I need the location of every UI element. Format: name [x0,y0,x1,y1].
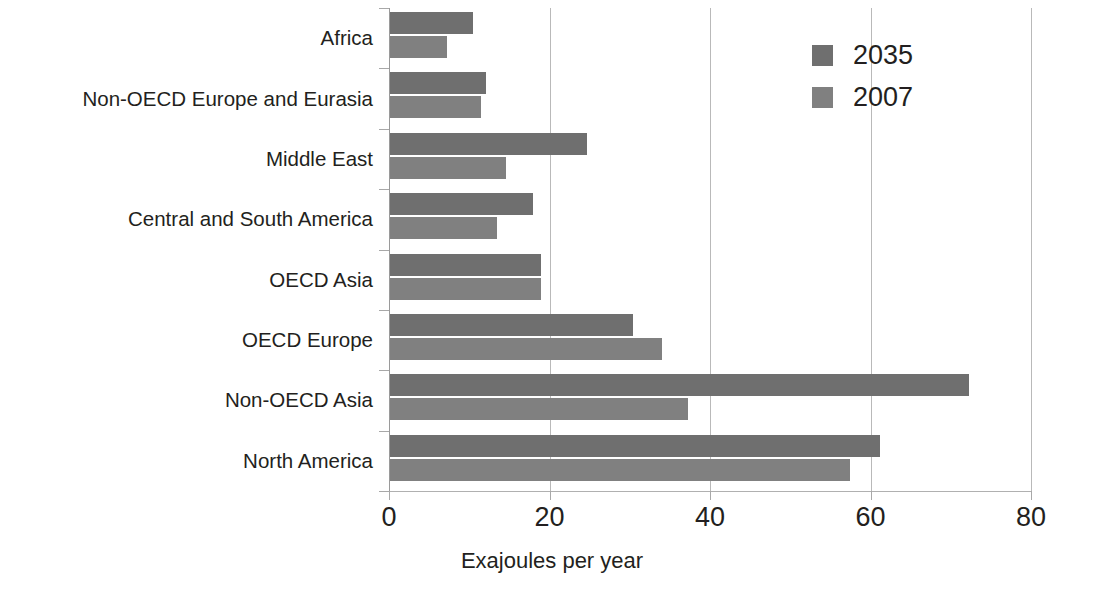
chart-legend: 2035 2007 [812,34,992,118]
category-label: OECD Asia [0,270,373,291]
bar-group [389,129,1031,189]
x-tick-label: 60 [855,504,885,531]
bar-group [389,189,1031,249]
x-tick-label: 80 [1016,504,1046,531]
y-tick [379,189,389,190]
y-tick [379,129,389,130]
bar-2035 [389,314,633,336]
bar-2035 [389,133,587,155]
bar-group [389,310,1031,370]
y-tick [379,310,389,311]
bar-2007 [389,96,481,118]
bar-2035 [389,435,880,457]
y-tick [379,68,389,69]
legend-swatch-icon-2035 [812,45,833,66]
category-label: Non-OECD Europe and Eurasia [0,89,373,110]
bar-chart: AfricaNon-OECD Europe and EurasiaMiddle … [0,0,1104,592]
legend-item-2035[interactable]: 2035 [812,34,992,76]
x-tick-label: 0 [381,504,396,531]
category-label: North America [0,451,373,472]
y-tick [379,8,389,9]
y-tick [379,431,389,432]
y-axis-line [389,8,390,492]
legend-item-2007[interactable]: 2007 [812,76,992,118]
bar-2035 [389,374,969,396]
category-label: OECD Europe [0,330,373,351]
x-tick-label: 40 [695,504,725,531]
bar-group [389,370,1031,430]
category-label: Africa [0,28,373,49]
x-tick-label: 20 [534,504,564,531]
bar-2035 [389,72,486,94]
bar-2007 [389,459,850,481]
bar-group [389,250,1031,310]
y-tick [379,491,389,492]
y-tick [379,250,389,251]
bar-2035 [389,254,541,276]
bar-2035 [389,12,473,34]
x-tick [389,491,390,500]
legend-swatch-icon-2007 [812,87,833,108]
y-tick [379,370,389,371]
x-axis-title: Exajoules per year [0,550,1104,572]
bar-2007 [389,157,506,179]
bar-2007 [389,217,497,239]
gridline-80 [1031,8,1032,491]
category-label: Non-OECD Asia [0,390,373,411]
bar-2007 [389,36,447,58]
x-tick [550,491,551,500]
category-label: Central and South America [0,209,373,230]
legend-label-2035: 2035 [853,42,913,69]
bar-2007 [389,338,662,360]
bar-2007 [389,398,688,420]
bar-2035 [389,193,533,215]
category-label: Middle East [0,149,373,170]
x-tick [1031,491,1032,500]
bar-group [389,431,1031,491]
legend-label-2007: 2007 [853,84,913,111]
x-tick [871,491,872,500]
x-tick [710,491,711,500]
bar-2007 [389,278,541,300]
